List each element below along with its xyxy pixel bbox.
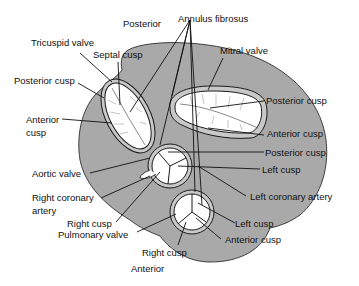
label-tricuspid-anterior-cusp-line1: Anterior <box>26 114 59 125</box>
label-tricuspid-posterior-cusp: Posterior cusp <box>14 75 75 86</box>
label-right-coronary-artery-line2: artery <box>32 205 56 216</box>
label-annulus-fibrosus: Annulus fibrosus <box>178 13 248 24</box>
label-anterior: Anterior <box>131 263 164 274</box>
label-posterior: Posterior <box>123 18 161 29</box>
label-aortic-posterior-cusp: Posterior cusp <box>265 147 326 158</box>
label-tricuspid-anterior-cusp-line2: cusp <box>26 127 46 138</box>
label-left-coronary-artery: Left coronary artery <box>250 191 332 202</box>
label-septal-cusp: Septal cusp <box>93 49 143 60</box>
label-aortic-right-cusp: Right cusp <box>67 218 112 229</box>
label-aortic-valve: Aortic valve <box>32 168 81 179</box>
label-pulmonary-right-cusp: Right cusp <box>142 247 187 258</box>
label-pulmonary-left-cusp: Left cusp <box>235 218 274 229</box>
label-tricuspid-valve: Tricuspid valve <box>31 37 94 48</box>
label-mitral-anterior-cusp: Anterior cusp <box>267 128 323 139</box>
label-pulmonary-anterior-cusp: Anterior cusp <box>225 234 281 245</box>
label-aortic-left-cusp: Left cusp <box>262 164 301 175</box>
label-pulmonary-valve: Pulmonary valve <box>58 229 128 240</box>
label-right-coronary-artery-line1: Right coronary <box>32 192 94 203</box>
label-mitral-valve: Mitral valve <box>220 45 268 56</box>
label-mitral-posterior-cusp: Posterior cusp <box>266 95 327 106</box>
